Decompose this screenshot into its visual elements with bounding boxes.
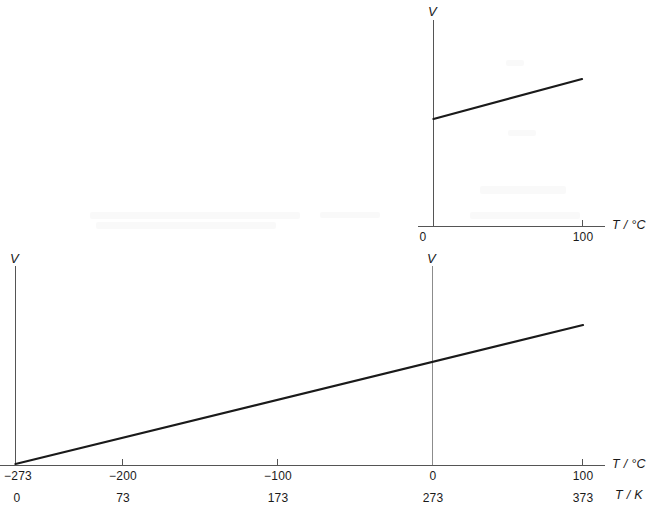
data-line-absolute-zero-chart <box>16 325 584 464</box>
x-tick-label-celsius-minus273: −273 <box>4 470 32 482</box>
x-tick-label-celsius-minus100: −100 <box>264 470 292 482</box>
y-axis-label-right-absolute-zero-chart: V <box>427 252 436 265</box>
x-tick-label-celsius-100: 100 <box>573 470 594 482</box>
figure-canvas: V 0 100 T / °C V V −273 −200 −100 0 100 … <box>0 0 662 514</box>
x-tick-label-kelvin-173: 173 <box>268 492 289 504</box>
x-tick-label-100-celsius-chart: 100 <box>573 231 594 243</box>
x-tick-label-kelvin-373: 373 <box>573 492 594 504</box>
x-tick-label-kelvin-73: 73 <box>116 492 130 504</box>
x-axis-label-celsius-chart: T / °C <box>612 219 646 232</box>
graphs-svg <box>0 0 662 514</box>
x-tick-label-celsius-minus200: −200 <box>109 470 137 482</box>
y-axis-label-left-absolute-zero-chart: V <box>10 252 19 265</box>
x-tick-label-celsius-0: 0 <box>430 470 437 482</box>
x-axis-label-celsius-absolute-zero-chart: T / °C <box>612 458 646 471</box>
x-tick-label-0-celsius-chart: 0 <box>420 231 427 243</box>
x-axis-label-kelvin-absolute-zero-chart: T / K <box>615 489 643 502</box>
y-axis-label-celsius-chart: V <box>428 5 437 18</box>
data-line-celsius-chart <box>434 79 583 119</box>
x-tick-label-kelvin-0: 0 <box>14 492 21 504</box>
x-tick-label-kelvin-273: 273 <box>423 492 444 504</box>
chart-celsius-only <box>418 20 605 227</box>
chart-absolute-zero <box>0 266 605 466</box>
